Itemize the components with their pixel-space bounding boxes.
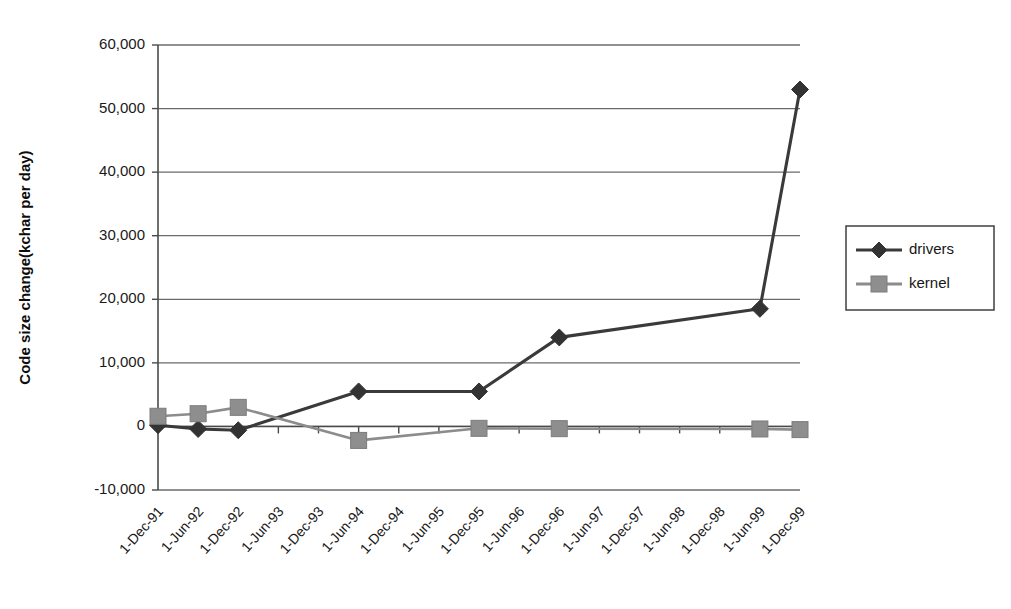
chart-legend: driverskernel: [846, 226, 994, 310]
x-tick-label: 1-Dec-95: [437, 503, 488, 557]
x-tick-label: 1-Dec-96: [517, 503, 568, 557]
y-tick-label: 10,000: [99, 353, 145, 370]
data-point-kernel: [752, 421, 768, 437]
x-tick-label: 1-Dec-93: [276, 503, 327, 557]
y-tick-label: 60,000: [99, 35, 145, 52]
x-tick-label: 1-Dec-92: [196, 503, 247, 557]
series-line-drivers: [158, 90, 800, 431]
y-tick-label: -10,000: [94, 480, 145, 497]
legend-label-drivers: drivers: [909, 240, 954, 257]
x-tick-label: 1-Dec-94: [357, 503, 408, 557]
data-point-drivers: [230, 422, 247, 439]
data-point-drivers: [471, 383, 488, 400]
legend-square-marker-icon: [871, 276, 887, 292]
data-point-drivers: [792, 81, 809, 98]
line-chart: 60,00050,00040,00030,00020,00010,0000-10…: [0, 0, 1011, 609]
x-tick-label: 1-Dec-98: [678, 503, 729, 557]
data-point-kernel: [471, 420, 487, 436]
x-axis-labels: 1-Dec-911-Jun-921-Dec-921-Jun-931-Dec-93…: [116, 503, 809, 557]
y-tick-label: 50,000: [99, 99, 145, 116]
y-tick-label: 20,000: [99, 289, 145, 306]
data-point-drivers: [751, 300, 768, 317]
data-point-kernel: [551, 421, 567, 437]
data-point-kernel: [150, 408, 166, 424]
data-point-drivers: [350, 383, 367, 400]
legend-box: [846, 226, 994, 310]
data-point-drivers: [190, 420, 207, 437]
y-axis-ticks: 60,00050,00040,00030,00020,00010,0000-10…: [94, 35, 158, 497]
x-tick-label: 1-Dec-97: [597, 503, 648, 557]
y-tick-label: 0: [137, 416, 145, 433]
chart-container: 60,00050,00040,00030,00020,00010,0000-10…: [0, 0, 1011, 609]
y-axis-title: Code size change(kchar per day): [16, 150, 33, 384]
y-tick-label: 40,000: [99, 162, 145, 179]
data-point-kernel: [351, 432, 367, 448]
legend-label-kernel: kernel: [909, 274, 950, 291]
x-tick-label: 1-Dec-99: [758, 503, 809, 557]
data-point-drivers: [551, 329, 568, 346]
data-point-kernel: [230, 399, 246, 415]
data-point-kernel: [190, 406, 206, 422]
y-tick-label: 30,000: [99, 226, 145, 243]
data-point-kernel: [792, 422, 808, 438]
data-series: [150, 81, 809, 448]
x-tick-label: 1-Dec-91: [116, 503, 167, 557]
y-axis-title-text: Code size change(kchar per day): [16, 150, 33, 384]
